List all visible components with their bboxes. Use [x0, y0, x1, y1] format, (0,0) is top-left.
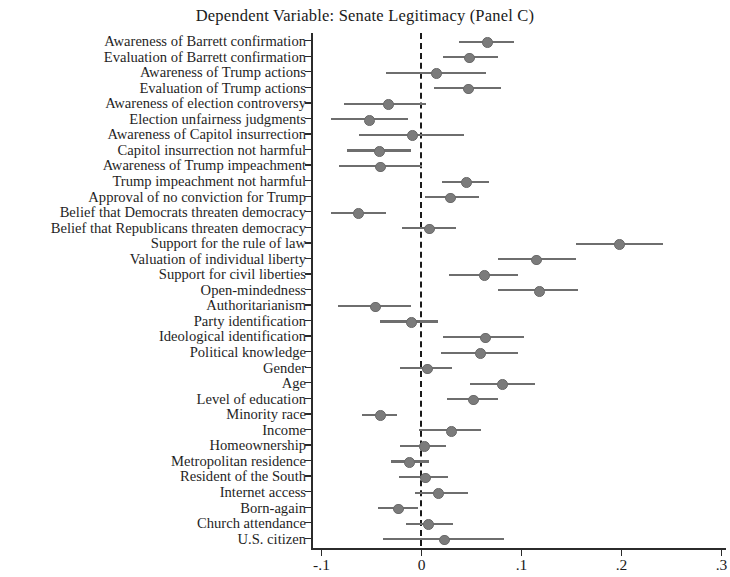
coefficient-row-label: Evaluation of Barrett confirmation: [104, 49, 306, 66]
y-axis-tick: [305, 149, 312, 150]
y-axis-tick: [305, 273, 312, 274]
coefficient-row: Political knowledge: [0, 344, 730, 361]
coefficient-row: Approval of no conviction for Trump: [0, 189, 730, 206]
point-estimate-marker: [534, 286, 545, 297]
coefficient-row-label: Minority race: [226, 406, 306, 423]
y-axis-tick: [305, 538, 312, 539]
point-estimate-marker: [531, 255, 542, 266]
coefficient-row: Capitol insurrection not harmful: [0, 142, 730, 159]
coefficient-row: Evaluation of Barrett confirmation: [0, 49, 730, 66]
coefficient-row: Evaluation of Trump actions: [0, 80, 730, 97]
x-axis-tick: [621, 548, 622, 556]
point-estimate-marker: [364, 115, 375, 126]
coefficient-row: Party identification: [0, 313, 730, 330]
coefficient-row-label: Age: [282, 375, 306, 392]
point-estimate-marker: [423, 519, 434, 530]
y-axis-tick: [305, 133, 312, 134]
coefficient-row: Support for civil liberties: [0, 266, 730, 283]
coefficient-row-label: Capitol insurrection not harmful: [118, 142, 306, 159]
coefficient-row-label: Income: [262, 422, 306, 439]
y-axis-tick: [305, 289, 312, 290]
x-axis-tick: [421, 548, 422, 556]
coefficient-row: Resident of the South: [0, 468, 730, 485]
coefficient-row-label: Belief that Republicans threaten democra…: [51, 220, 306, 237]
y-axis-tick: [305, 460, 312, 461]
y-axis-tick: [305, 180, 312, 181]
coefficient-row: Minority race: [0, 406, 730, 423]
coefficient-row-label: Election unfairness judgments: [129, 111, 306, 128]
coefficient-row: Awareness of Capitol insurrection: [0, 126, 730, 143]
coefficient-row-label: Level of education: [197, 391, 306, 408]
coefficient-row-label: U.S. citizen: [238, 531, 307, 548]
point-estimate-marker: [431, 68, 442, 79]
coefficient-plot-figure: Dependent Variable: Senate Legitimacy (P…: [0, 0, 730, 577]
y-axis-tick: [305, 40, 312, 41]
point-estimate-marker: [353, 208, 364, 219]
coefficient-row: Gender: [0, 360, 730, 377]
y-axis-tick: [305, 522, 312, 523]
y-axis-tick: [305, 56, 312, 57]
coefficient-row-label: Homeownership: [210, 437, 306, 454]
coefficient-row: Age: [0, 375, 730, 392]
point-estimate-marker: [422, 364, 433, 375]
coefficient-row: Awareness of Trump impeachment: [0, 157, 730, 174]
y-axis-tick: [305, 118, 312, 119]
coefficient-row: Election unfairness judgments: [0, 111, 730, 128]
coefficient-row-label: Born-again: [240, 500, 306, 517]
point-estimate-marker: [374, 146, 385, 157]
coefficient-row: Homeownership: [0, 437, 730, 454]
y-axis-tick: [305, 367, 312, 368]
y-axis-tick: [305, 320, 312, 321]
coefficient-row: Open-mindedness: [0, 282, 730, 299]
point-estimate-marker: [433, 488, 444, 499]
y-axis-tick: [305, 491, 312, 492]
coefficient-row: Awareness of Trump actions: [0, 64, 730, 81]
y-axis-tick: [305, 102, 312, 103]
coefficient-row-label: Awareness of Trump actions: [140, 64, 306, 81]
coefficient-row: Income: [0, 422, 730, 439]
point-estimate-marker: [468, 395, 479, 406]
coefficient-row: U.S. citizen: [0, 531, 730, 548]
x-axis-tick: [521, 548, 522, 556]
coefficient-row: Valuation of individual liberty: [0, 251, 730, 268]
point-estimate-marker: [393, 504, 404, 515]
point-estimate-marker: [445, 193, 456, 204]
coefficient-row-label: Ideological identification: [159, 328, 306, 345]
point-estimate-marker: [424, 224, 435, 235]
point-estimate-marker: [375, 162, 386, 173]
point-estimate-marker: [375, 410, 386, 421]
coefficient-row-label: Resident of the South: [180, 468, 306, 485]
point-estimate-marker: [383, 99, 394, 110]
coefficient-row: Belief that Democrats threaten democracy: [0, 204, 730, 221]
point-estimate-marker: [614, 239, 625, 250]
coefficient-row: Level of education: [0, 391, 730, 408]
point-estimate-marker: [482, 37, 493, 48]
coefficient-row-label: Trump impeachment not harmful: [112, 173, 306, 190]
coefficient-row-label: Awareness of election controversy: [105, 95, 306, 112]
coefficient-row-label: Church attendance: [197, 515, 306, 532]
x-axis-tick-label: .1: [516, 556, 528, 574]
coefficient-row-label: Authoritarianism: [206, 297, 306, 314]
y-axis-tick: [305, 227, 312, 228]
coefficient-row: Ideological identification: [0, 328, 730, 345]
y-axis-tick: [305, 304, 312, 305]
y-axis-tick: [305, 164, 312, 165]
x-axis-tick: [321, 548, 322, 556]
coefficient-row: Born-again: [0, 500, 730, 517]
y-axis-tick: [305, 429, 312, 430]
coefficient-row: Belief that Republicans threaten democra…: [0, 220, 730, 237]
point-estimate-marker: [420, 473, 431, 484]
x-axis-line: [311, 548, 726, 550]
y-axis-tick: [305, 351, 312, 352]
y-axis-tick: [305, 507, 312, 508]
coefficient-row-label: Political knowledge: [190, 344, 306, 361]
coefficient-row: Internet access: [0, 484, 730, 501]
coefficient-row-label: Open-mindedness: [201, 282, 306, 299]
y-axis-tick: [305, 382, 312, 383]
point-estimate-marker: [370, 302, 381, 313]
point-estimate-marker: [439, 535, 450, 546]
coefficient-row-label: Metropolitan residence: [171, 453, 306, 470]
y-axis-tick: [305, 71, 312, 72]
point-estimate-marker: [419, 441, 430, 452]
coefficient-row-label: Gender: [263, 360, 306, 377]
